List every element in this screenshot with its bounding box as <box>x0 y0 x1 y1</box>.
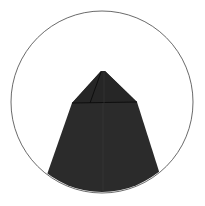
folded-shape <box>36 71 170 206</box>
shape-top-flap <box>72 71 137 103</box>
diagram-canvas <box>0 0 205 206</box>
